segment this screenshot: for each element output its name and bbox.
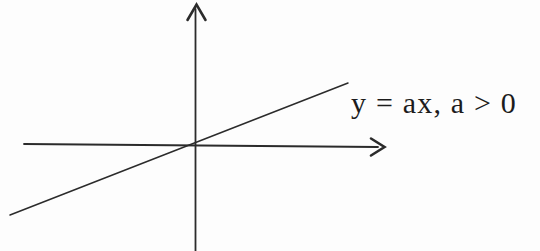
axes-plot: y = ax, a > 0 <box>0 0 540 251</box>
y-axis-arrowhead-icon <box>188 5 206 21</box>
x-axis-line <box>24 144 378 147</box>
math-figure: y = ax, a > 0 <box>0 0 540 251</box>
function-line <box>10 83 348 215</box>
function-label: y = ax, a > 0 <box>351 86 517 119</box>
